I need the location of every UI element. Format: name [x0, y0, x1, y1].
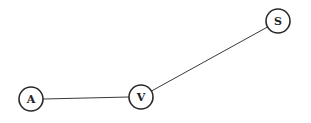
graph-diagram: A V S: [0, 0, 311, 123]
node-s: S: [266, 9, 290, 33]
nodes-layer: A V S: [19, 9, 290, 111]
edge-v-s: [152, 27, 268, 91]
edges-layer: [43, 27, 268, 99]
node-v-label: V: [136, 91, 146, 104]
node-a-label: A: [26, 93, 36, 106]
node-v: V: [129, 85, 153, 109]
edge-a-v: [43, 97, 129, 99]
node-a: A: [19, 87, 43, 111]
node-s-label: S: [274, 15, 282, 28]
